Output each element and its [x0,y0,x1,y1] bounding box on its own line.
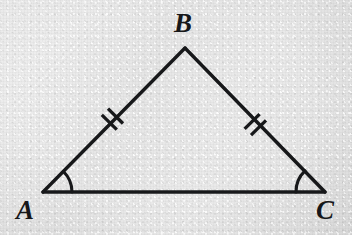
triangle-outline [43,48,325,192]
angle-arc-a [63,171,72,192]
tick-marks-side-bc [245,114,266,135]
vertex-label-a: A [16,197,34,224]
vertex-label-c: C [316,197,334,224]
vertex-label-b: B [174,10,192,37]
angle-arc-c [296,171,305,192]
geometry-figure: A B C [0,0,352,235]
